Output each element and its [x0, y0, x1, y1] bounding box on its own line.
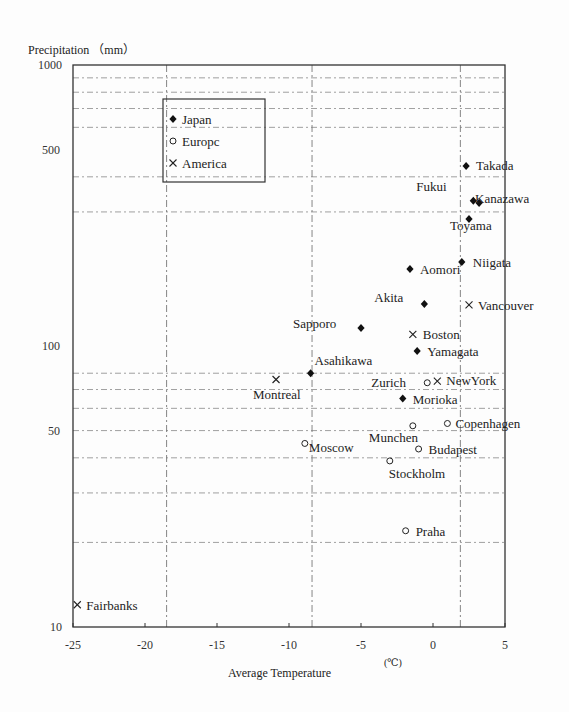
legend-entry-america: America [182, 156, 227, 171]
point-label: Praha [416, 524, 446, 539]
legend-entry-europc: Europc [182, 134, 220, 149]
legend: JapanEuropcAmerica [163, 99, 265, 182]
data-point-moscow: Moscow [302, 440, 354, 455]
data-point-sapporo: Sapporo [293, 316, 365, 332]
data-point-fukui: Fukui [416, 179, 477, 205]
diamond-marker-icon [414, 347, 421, 355]
circle-marker-icon [302, 440, 308, 446]
data-point-vancouver: Vancouver [466, 298, 535, 313]
data-point-yamagata: Yamagata [414, 344, 479, 359]
data-point-montreal: Montreal [253, 376, 301, 403]
diamond-marker-icon [421, 300, 428, 308]
data-point-praha: Praha [403, 524, 446, 539]
data-point-copenhagen: Copenhagen [444, 416, 520, 431]
diamond-marker-icon [463, 162, 470, 170]
x-tick-label: 5 [502, 638, 508, 652]
point-label: Niigata [473, 255, 511, 270]
x-tick-label: -20 [137, 638, 153, 652]
data-point-fairbanks: Fairbanks [74, 598, 138, 613]
point-label: Stockholm [389, 466, 445, 481]
x-marker-icon [434, 378, 441, 385]
data-point-takada: Takada [463, 158, 514, 173]
point-label: Aomori [420, 262, 461, 277]
point-label: Munchen [369, 430, 419, 445]
diamond-marker-icon [307, 369, 314, 377]
point-label: Vancouver [478, 298, 534, 313]
x-tick-label: 0 [430, 638, 436, 652]
x-tick-label: -25 [65, 638, 81, 652]
point-label: Morioka [413, 392, 458, 407]
circle-marker-icon [170, 138, 176, 144]
y-tick-label: 1000 [38, 58, 62, 72]
data-points: TakadaKanazawaFukuiToyamaNiigataAomoriAk… [74, 158, 534, 613]
circle-marker-icon [424, 380, 430, 386]
point-label: Boston [423, 327, 460, 342]
diamond-marker-icon [399, 395, 406, 403]
data-point-aomori: Aomori [406, 262, 460, 277]
point-label: Yamagata [427, 344, 479, 359]
data-point-akita: Akita [374, 290, 428, 308]
x-marker-icon [170, 160, 177, 167]
legend-entry-japan: Japan [182, 112, 212, 127]
data-point-boston: Boston [409, 327, 460, 342]
point-label: Budapest [429, 442, 478, 457]
diamond-marker-icon [406, 265, 413, 273]
data-point-munchen: Munchen [369, 423, 419, 445]
circle-marker-icon [444, 420, 450, 426]
point-label: Asahikawa [315, 353, 373, 368]
point-label: Kanazawa [475, 191, 529, 206]
scatter-plot: -25-20-15-10-50510501005001000 TakadaKan… [0, 0, 569, 712]
data-point-toyama: Toyama [450, 215, 492, 233]
y-tick-label: 10 [50, 620, 62, 634]
y-tick-label: 50 [48, 424, 60, 438]
circle-marker-icon [403, 528, 409, 534]
point-label: Akita [374, 290, 403, 305]
point-label: NewYork [446, 373, 496, 388]
circle-marker-icon [387, 458, 393, 464]
point-label: Sapporo [293, 316, 336, 331]
y-tick-label: 500 [42, 143, 60, 157]
data-point-morioka: Morioka [399, 392, 458, 407]
data-point-newyork: NewYork [434, 373, 497, 388]
x-marker-icon [466, 301, 473, 308]
point-label: Montreal [253, 387, 301, 402]
point-label: Toyama [450, 218, 492, 233]
y-tick-label: 100 [42, 339, 60, 353]
point-label: Copenhagen [455, 416, 520, 431]
point-label: Takada [476, 158, 514, 173]
point-label: Fukui [416, 179, 447, 194]
x-marker-icon [273, 376, 280, 383]
x-tick-label: -5 [356, 638, 366, 652]
data-point-budapest: Budapest [416, 442, 478, 457]
diamond-marker-icon [357, 324, 364, 332]
point-label: Moscow [309, 440, 354, 455]
point-label: Fairbanks [86, 598, 137, 613]
point-label: Zurich [371, 375, 406, 390]
data-point-kanazawa: Kanazawa [475, 191, 529, 207]
x-tick-label: -10 [281, 638, 297, 652]
data-point-zurich: Zurich [371, 375, 430, 390]
data-point-niigata: Niigata [458, 255, 511, 270]
x-tick-label: -15 [209, 638, 225, 652]
circle-marker-icon [410, 423, 416, 429]
circle-marker-icon [416, 446, 422, 452]
x-marker-icon [409, 331, 416, 338]
x-marker-icon [74, 601, 81, 608]
diamond-marker-icon [169, 115, 176, 123]
data-point-stockholm: Stockholm [387, 458, 445, 481]
